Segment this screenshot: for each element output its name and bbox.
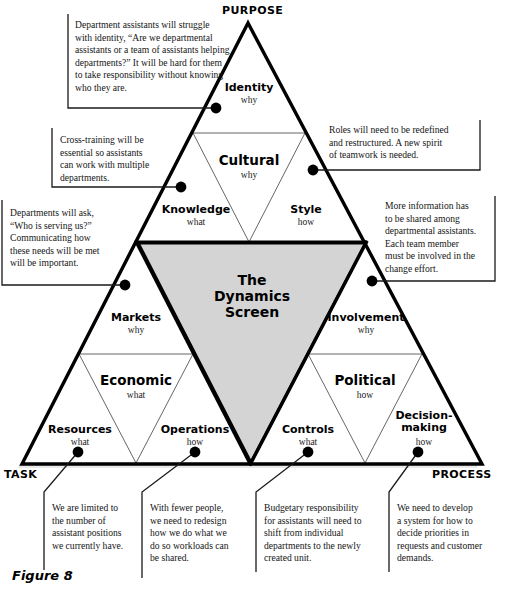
- cell-label-knowledge: Knowledge: [162, 203, 231, 216]
- cell-label-economic: Economic: [100, 372, 172, 388]
- cell-question-resources: what: [71, 437, 89, 447]
- callout-text-involvement: More information has to be shared among …: [385, 200, 495, 276]
- cell-question-style: how: [298, 217, 314, 227]
- callout-text-decision: We need to develop a system for how to d…: [397, 502, 509, 565]
- cell-label-political: Political: [334, 372, 395, 388]
- dot-style: [308, 165, 319, 176]
- dot-resources: [73, 447, 84, 458]
- callout-text-resources: We are limited to the number of assistan…: [52, 502, 160, 552]
- dot-decision: [413, 447, 424, 458]
- corner-label-task: TASK: [4, 468, 37, 481]
- dot-controls: [303, 447, 314, 458]
- cell-question-identity: why: [241, 95, 257, 105]
- cell-question-political: how: [357, 390, 373, 400]
- cell-question-markets: why: [128, 325, 144, 335]
- cell-label-involvement: Involvement: [327, 311, 404, 324]
- cell-label-cultural: Cultural: [219, 152, 280, 168]
- cell-question-cultural: why: [241, 170, 257, 180]
- corner-label-purpose: PURPOSE: [222, 4, 283, 17]
- cell-label-resources: Resources: [48, 423, 112, 436]
- corner-label-process: PROCESS: [432, 468, 492, 481]
- dot-operations: [190, 447, 201, 458]
- callout-text-controls: Budgetary responsibility for assistants …: [264, 502, 388, 565]
- dynamics-screen-figure: PURPOSE TASK PROCESS Identity why Cultur…: [0, 0, 512, 596]
- cell-question-involvement: why: [358, 325, 374, 335]
- dynamics-screen-title: The Dynamics Screen: [214, 272, 290, 320]
- dot-markets: [120, 280, 131, 291]
- callout-text-knowledge: Cross-training will be essential so assi…: [60, 134, 185, 184]
- dot-involvement: [367, 276, 378, 287]
- cell-question-knowledge: what: [187, 217, 205, 227]
- cell-question-operations: how: [187, 437, 203, 447]
- callout-text-identity: Department assistants will struggle with…: [75, 19, 325, 95]
- figure-caption: Figure 8: [12, 568, 73, 583]
- cell-label-operations: Operations: [161, 423, 230, 436]
- callout-text-style: Roles will need to be redefined and rest…: [329, 124, 487, 162]
- cell-label-style: Style: [290, 203, 322, 216]
- cell-question-controls: what: [299, 437, 317, 447]
- cell-label-controls: Controls: [282, 423, 334, 436]
- cell-label-markets: Markets: [111, 311, 161, 324]
- cell-question-decision-making: how: [416, 437, 432, 447]
- dot-identity: [211, 103, 222, 114]
- callout-text-operations: With fewer people, we need to redesign h…: [150, 502, 262, 565]
- cell-question-economic: what: [127, 390, 145, 400]
- callout-text-markets: Departments will ask, “Who is serving us…: [10, 207, 135, 270]
- cell-label-decision-making: Decision- making: [395, 410, 452, 433]
